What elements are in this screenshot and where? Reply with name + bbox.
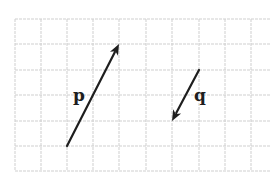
square-grid bbox=[15, 19, 271, 171]
vector-diagram: pq bbox=[0, 0, 271, 180]
vector-p-label: p bbox=[73, 85, 85, 105]
vector-q-label: q bbox=[194, 85, 206, 105]
